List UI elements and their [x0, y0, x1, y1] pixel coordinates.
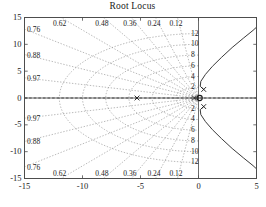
natural-frequency-label: 12 [191, 157, 199, 166]
pole-marker [201, 87, 206, 92]
locus-branch-lower [200, 106, 256, 169]
natural-frequency-label: 6 [191, 125, 195, 134]
locus-branch-upper [200, 27, 256, 90]
natural-frequency-label: 6 [191, 61, 195, 70]
damping-ratio-label: 0.12 [169, 169, 182, 178]
damping-ratio-label: 0.48 [95, 19, 108, 28]
natural-frequency-label: 4 [191, 72, 195, 81]
x-tick-label: -10 [69, 181, 97, 191]
natural-frequency-label: 8 [191, 50, 195, 59]
natural-frequency-label: 8 [191, 136, 195, 145]
y-tick-label: 10 [0, 39, 22, 49]
damping-ratio-label: 0.76 [27, 25, 40, 34]
natural-frequency-label: 2 [191, 82, 195, 91]
damping-ratio-label: 0.36 [123, 19, 136, 28]
y-tick-label: 0 [0, 93, 22, 103]
damping-ratio-label: 0.97 [27, 114, 40, 123]
natural-frequency-label: 4 [191, 114, 195, 123]
natural-frequency-label: 12 [191, 29, 199, 38]
damping-ratio-label: 0.97 [27, 74, 40, 83]
natural-frequency-label: 2 [191, 104, 195, 113]
y-tick-label: -5 [0, 119, 22, 129]
damping-ratio-label: 0.76 [27, 163, 40, 172]
natural-frequency-label: 10 [191, 147, 199, 156]
damping-ratio-label: 0.48 [95, 169, 108, 178]
x-tick-label: 0 [185, 181, 213, 191]
root-locus-figure: Root Locus -15-10-505-15-10-50510150.120… [0, 0, 265, 207]
x-tick-label: 5 [243, 181, 266, 191]
damping-ratio-label: 0.24 [147, 19, 160, 28]
x-tick-label: -5 [127, 181, 155, 191]
pole-marker [201, 104, 206, 109]
damping-ratio-label: 0.24 [147, 169, 160, 178]
damping-ratio-label: 0.36 [123, 169, 136, 178]
natural-frequency-label: 10 [191, 39, 199, 48]
y-tick-label: 5 [0, 66, 22, 76]
damping-ratio-label: 0.88 [27, 51, 40, 60]
damping-ratio-label: 0.62 [53, 169, 66, 178]
y-tick-label: 15 [0, 12, 22, 22]
damping-ratio-label: 0.88 [27, 137, 40, 146]
damping-ratio-label: 0.62 [53, 19, 66, 28]
y-tick-label: -10 [0, 146, 22, 156]
y-tick-label: -15 [0, 173, 22, 183]
damping-ratio-label: 0.12 [169, 19, 182, 28]
